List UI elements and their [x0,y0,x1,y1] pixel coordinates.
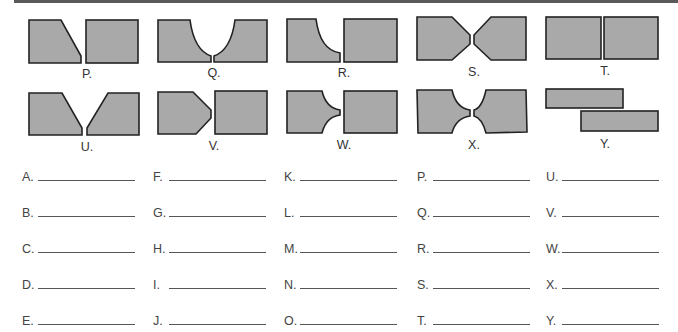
answer-blank[interactable] [562,179,659,181]
answer-letter: F. [153,171,169,184]
answer-letter: G. [153,207,169,220]
answer-t: T. [417,311,530,327]
answer-blank[interactable] [169,323,266,325]
figure-y [546,89,658,131]
answer-letter: E. [22,315,38,328]
answer-x: X. [546,275,659,291]
answer-a: A. [22,167,135,183]
answer-letter: O. [284,315,300,328]
answer-u: U. [546,167,659,183]
answer-letter: B. [22,207,38,220]
answer-d: D. [22,275,135,291]
answer-blank[interactable] [300,215,397,217]
answer-letter: M. [284,243,300,256]
figure-v [158,91,267,134]
figure-q [158,20,267,62]
figure-label-s: S. [468,66,480,79]
answer-g: G. [153,203,266,219]
answer-letter: N. [284,279,300,292]
answer-letter: V. [546,207,562,220]
answer-blank[interactable] [433,323,530,325]
figure-label-u: U. [81,141,94,154]
figure-t [546,17,658,59]
figure-label-y: Y. [600,138,610,151]
answer-blank[interactable] [169,251,266,253]
answer-blank[interactable] [562,323,659,325]
figure-label-p: P. [82,68,92,81]
answer-n: N. [284,275,397,291]
answer-blank[interactable] [169,215,266,217]
answer-letter: D. [22,279,38,292]
answer-w: W. [546,239,659,255]
figure-label-r: R. [338,67,351,80]
answer-blank[interactable] [433,215,530,217]
figure-p [29,20,138,63]
figure-label-v: V. [209,140,220,153]
figure-label-x: X. [468,139,480,152]
answer-letter: K. [284,171,300,184]
answer-h: H. [153,239,266,255]
answer-p: P. [417,167,530,183]
answer-letter: A. [22,171,38,184]
answer-letter: U. [546,171,562,184]
answer-j: J. [153,311,266,327]
answer-letter: P. [417,171,433,184]
figure-s [417,17,526,60]
answer-blank[interactable] [562,251,659,253]
answer-blank[interactable] [38,323,135,325]
answer-blank[interactable] [433,287,530,289]
answer-y: Y. [546,311,659,327]
answer-r: R. [417,239,530,255]
answer-m: M. [284,239,397,255]
answer-letter: C. [22,243,38,256]
answer-q: Q. [417,203,530,219]
answer-blank[interactable] [169,287,266,289]
answer-blank[interactable] [300,287,397,289]
answer-l: L. [284,203,397,219]
answer-b: B. [22,203,135,219]
answer-letter: J. [153,315,169,328]
answer-letter: L. [284,207,300,220]
answer-blank[interactable] [433,251,530,253]
answer-blank[interactable] [169,179,266,181]
figure-label-q: Q. [207,67,220,80]
figure-x [417,90,527,133]
answer-letter: T. [417,315,433,328]
answer-blank[interactable] [38,179,135,181]
answer-i: I. [153,275,266,291]
figure-label-t: T. [600,65,610,78]
answer-letter: I. [153,279,169,292]
answer-f: F. [153,167,266,183]
answer-letter: W. [546,243,562,256]
answer-e: E. [22,311,135,327]
answer-blank[interactable] [562,287,659,289]
answer-letter: Q. [417,207,433,220]
answer-c: C. [22,239,135,255]
figure-w [287,91,397,133]
answer-blank[interactable] [300,251,397,253]
answer-o: O. [284,311,397,327]
answer-letter: Y. [546,315,562,328]
answer-letter: X. [546,279,562,292]
answer-blank[interactable] [300,323,397,325]
answer-v: V. [546,203,659,219]
answer-blank[interactable] [562,215,659,217]
answer-letter: S. [417,279,433,292]
answer-blank[interactable] [300,179,397,181]
answer-blank[interactable] [38,215,135,217]
figure-label-w: W. [337,139,352,152]
answer-blank[interactable] [38,287,135,289]
answer-s: S. [417,275,530,291]
answer-letter: R. [417,243,433,256]
answer-blank[interactable] [38,251,135,253]
figure-u [29,93,139,135]
answer-letter: H. [153,243,169,256]
answer-k: K. [284,167,397,183]
answer-blank[interactable] [433,179,530,181]
figure-r [287,19,397,62]
